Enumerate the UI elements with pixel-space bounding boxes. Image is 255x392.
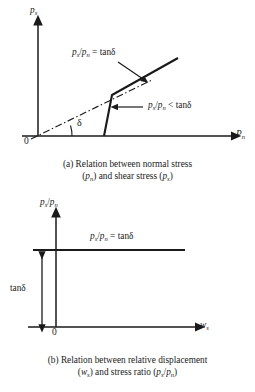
panel-a-origin-label: 0 (24, 136, 29, 146)
panel-a-upper-annotation: ps/pn = tanδ (72, 48, 115, 57)
panel-a-lower-annotation: ps/pn < tanδ (148, 101, 191, 110)
panel-a-y-axis-label: ps (30, 6, 37, 15)
panel-b-origin-label: 0 (52, 327, 57, 337)
panel-b-caption: (b) Relation between relative displaceme… (0, 354, 255, 379)
panel-a-caption: (a) Relation between normal stress (pn) … (0, 158, 255, 183)
panel-a-upper-annotation-leader (118, 62, 143, 79)
panel-b-plot (0, 196, 255, 354)
panel-a-angle-arc (71, 126, 73, 137)
panel-b-x-axis-label: ws (200, 321, 209, 330)
panel-b-tan-delta-label: tanδ (10, 284, 26, 293)
panel-a-tan-delta-reference-line (31, 80, 152, 139)
panel-a-response-curve (104, 58, 178, 136)
panel-b-caption-line-1: (b) Relation between relative displaceme… (0, 354, 255, 366)
panel-a-normal-vs-shear-stress: ps Pn 0 δ ps/pn = tanδ ps/pn < tanδ (a) … (0, 0, 255, 196)
panel-a-caption-line-2: (pn) and shear stress (ps) (0, 170, 255, 183)
panel-a-plot (0, 0, 255, 158)
panel-b-caption-line-2: (ws) and stress ratio (ps/pn) (0, 366, 255, 379)
panel-b-y-axis-label: ps/pn (40, 198, 58, 207)
figure-root: ps Pn 0 δ ps/pn = tanδ ps/pn < tanδ (a) … (0, 0, 255, 392)
panel-a-angle-label: δ (77, 118, 82, 128)
panel-a-x-axis-label: Pn (236, 130, 245, 139)
panel-a-caption-line-1: (a) Relation between normal stress (0, 158, 255, 170)
panel-b-plateau-annotation: ps/pn = tanδ (90, 232, 133, 241)
panel-b-displacement-vs-stress-ratio: ps/pn ws 0 tanδ ps/pn = tanδ (b) Relatio… (0, 196, 255, 392)
